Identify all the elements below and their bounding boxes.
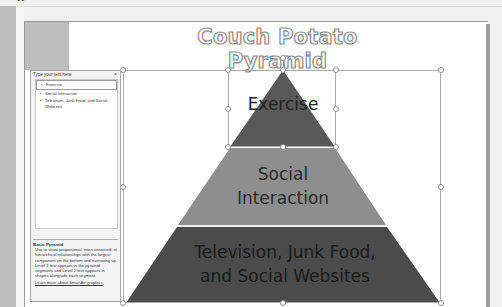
layout-description-text: Use to show proportional, interconnected… [35, 247, 118, 279]
frame-handle-mr[interactable] [438, 184, 444, 190]
shape-handle-tm[interactable] [280, 67, 286, 73]
frame-handle-bm[interactable] [280, 300, 286, 306]
list-item-text: Television, Junk Food, and Social Websit… [45, 98, 107, 109]
segment-middle-line1: Social [180, 162, 386, 186]
rotation-handle[interactable] [280, 55, 286, 61]
list-item[interactable]: • Social Interaction [36, 90, 117, 98]
segment-middle-label[interactable]: Social Interaction [180, 162, 386, 210]
smartart-text-pane: Type your text here × • Exercise • Socia… [30, 70, 121, 302]
bullet-icon: • [41, 82, 42, 88]
learn-more-link[interactable]: Learn more about SmartArt graphics [35, 280, 118, 285]
list-item-text: Social Interaction [45, 91, 77, 96]
bullet-icon: • [40, 91, 41, 97]
bullet-icon: • [40, 98, 41, 104]
shape-handle-br[interactable] [333, 144, 339, 150]
segment-top-label[interactable]: Exercise [228, 94, 338, 114]
layout-description: Basic Pyramid Use to show proportional, … [33, 239, 118, 285]
segment-bottom-line1: Television, Junk Food, [140, 240, 430, 264]
close-icon[interactable]: × [114, 71, 117, 77]
segment-bottom-line2: and Social Websites [140, 264, 430, 288]
shape-handle-tl[interactable] [225, 67, 231, 73]
frame-handle-br[interactable] [438, 300, 444, 306]
shape-handle-tr[interactable] [333, 67, 339, 73]
text-pane-title: Type your text here [33, 72, 72, 77]
segment-bottom-label[interactable]: Television, Junk Food, and Social Websit… [140, 240, 430, 288]
text-pane-list[interactable]: • Exercise • Social Interaction • Televi… [35, 79, 118, 229]
list-item[interactable]: • Television, Junk Food, and Social Webs… [36, 97, 117, 110]
frame-handle-tr[interactable] [438, 67, 444, 73]
list-item[interactable]: • Exercise [36, 80, 117, 90]
shape-handle-bl[interactable] [225, 144, 231, 150]
segment-middle-line2: Interaction [180, 186, 386, 210]
shape-handle-bm[interactable] [280, 144, 286, 150]
list-item-text: Exercise [46, 82, 62, 87]
